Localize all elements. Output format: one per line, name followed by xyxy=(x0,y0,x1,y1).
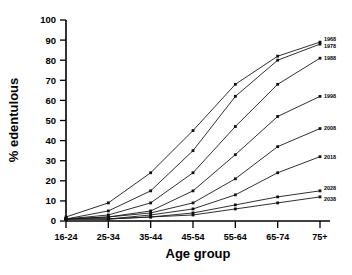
x-axis-title: Age group xyxy=(166,246,231,261)
data-point xyxy=(234,153,237,156)
y-tick-label: 100 xyxy=(40,14,56,25)
data-point xyxy=(149,171,152,174)
series-label-1978: 1978 xyxy=(324,43,336,49)
data-point xyxy=(192,149,195,152)
data-point xyxy=(65,218,68,221)
data-point xyxy=(107,210,110,213)
data-point xyxy=(149,189,152,192)
y-tick-marks xyxy=(60,20,66,221)
data-point xyxy=(319,57,322,60)
y-axis-title: % edentulous xyxy=(6,78,21,163)
data-point xyxy=(276,83,279,86)
y-tick-label: 50 xyxy=(45,115,56,126)
y-tick-label: 70 xyxy=(45,75,56,86)
x-tick-marks xyxy=(66,221,320,228)
series-label-1998: 1998 xyxy=(324,93,336,99)
data-point xyxy=(192,214,195,217)
data-point xyxy=(319,155,322,158)
data-point xyxy=(149,216,152,219)
y-tick-label: 40 xyxy=(45,135,56,146)
data-point xyxy=(234,208,237,211)
series-markers-group xyxy=(65,41,322,221)
data-point xyxy=(234,95,237,98)
x-tick-label: 45-54 xyxy=(181,232,204,242)
y-tick-label: 10 xyxy=(45,195,56,206)
series-line-1998 xyxy=(66,96,320,219)
data-point xyxy=(319,127,322,130)
data-point xyxy=(234,177,237,180)
data-point xyxy=(107,202,110,205)
data-point xyxy=(319,195,322,198)
data-point xyxy=(276,171,279,174)
data-point xyxy=(276,145,279,148)
data-point xyxy=(276,202,279,205)
chart-figure: 0102030405060708090100 % edentulous 16-2… xyxy=(0,0,352,275)
y-tick-label: 80 xyxy=(45,55,56,66)
data-point xyxy=(192,129,195,132)
y-tick-label: 0 xyxy=(51,215,56,226)
data-point xyxy=(319,189,322,192)
y-tick-label: 20 xyxy=(45,175,56,186)
data-point xyxy=(234,204,237,207)
data-point xyxy=(276,55,279,58)
data-point xyxy=(319,43,322,46)
series-labels-group: 19681978198819982008201820282038 xyxy=(324,36,336,202)
data-point xyxy=(192,202,195,205)
y-tick-labels: 0102030405060708090100 xyxy=(40,14,56,226)
series-line-1988 xyxy=(66,58,320,219)
y-tick-label: 60 xyxy=(45,95,56,106)
data-point xyxy=(234,83,237,86)
series-label-2028: 2028 xyxy=(324,185,336,191)
y-tick-label: 30 xyxy=(45,155,56,166)
y-tick-label: 90 xyxy=(45,35,56,46)
x-axis-group: 16-2425-3435-4445-5455-6465-7475+ Age gr… xyxy=(54,221,330,261)
data-point xyxy=(276,195,279,198)
data-point xyxy=(276,59,279,62)
x-tick-label: 16-24 xyxy=(54,232,77,242)
x-tick-label: 25-34 xyxy=(97,232,120,242)
series-label-1968: 1968 xyxy=(324,36,336,42)
data-point xyxy=(107,218,110,221)
data-point xyxy=(192,208,195,211)
chart-canvas: 0102030405060708090100 % edentulous 16-2… xyxy=(0,0,352,275)
x-tick-labels: 16-2425-3435-4445-5455-6465-7475+ xyxy=(54,232,327,242)
x-tick-label: 75+ xyxy=(312,232,327,242)
data-point xyxy=(192,171,195,174)
data-point xyxy=(319,95,322,98)
data-point xyxy=(234,193,237,196)
series-label-1988: 1988 xyxy=(324,55,336,61)
series-label-2008: 2008 xyxy=(324,125,336,131)
series-label-2018: 2018 xyxy=(324,154,336,160)
x-tick-label: 55-64 xyxy=(224,232,247,242)
data-point xyxy=(149,202,152,205)
data-point xyxy=(192,189,195,192)
series-label-2038: 2038 xyxy=(324,196,336,202)
data-point xyxy=(276,115,279,118)
y-axis-group: 0102030405060708090100 % edentulous xyxy=(6,14,66,226)
x-tick-label: 35-44 xyxy=(139,232,162,242)
data-point xyxy=(234,125,237,128)
x-tick-label: 65-74 xyxy=(266,232,289,242)
